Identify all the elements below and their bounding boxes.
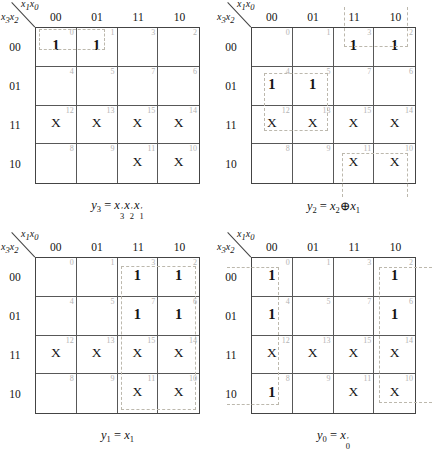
cell-value: X <box>334 106 374 144</box>
row-label-11: 11 <box>0 106 30 145</box>
row-label-11: 11 <box>0 336 30 375</box>
cell-number: 6 <box>409 68 413 76</box>
equation-op: = <box>111 428 124 442</box>
kmap-cell-7: 7 <box>334 297 375 336</box>
corner-label-x3x2: x3x2 <box>1 11 18 25</box>
cell-value: X <box>158 106 199 144</box>
kmap-cell-9: 9 <box>293 374 334 413</box>
equation-sub-digit: 3 <box>120 213 124 219</box>
col-label-10: 10 <box>375 239 416 255</box>
cell-value: X <box>374 106 415 144</box>
cell-number: 5 <box>111 68 115 76</box>
cell-value: X <box>158 144 199 183</box>
kmap-cell-9: 9 <box>77 144 118 183</box>
kmap-cell-6: 6 <box>374 67 415 106</box>
equation-sub: 1 <box>356 205 360 215</box>
group-outline-0 <box>39 29 105 50</box>
kmap-cell-13: 13X <box>293 336 334 375</box>
cell-number: 9 <box>327 145 331 153</box>
kmap-cell-5: 5 <box>77 67 118 106</box>
kmap-cell-4: 4 <box>36 67 77 106</box>
col-label-01: 01 <box>76 239 117 255</box>
cell-number: 9 <box>111 145 115 153</box>
kmap-cell-13: 13X <box>77 106 118 145</box>
cell-number: 7 <box>367 68 371 76</box>
row-label-01: 01 <box>0 296 30 335</box>
kmap-y1: x1x0x3x2000111100001111001312145716112X1… <box>0 230 216 459</box>
kmap-cell-12: 12X <box>36 336 77 375</box>
row-label-00: 00 <box>216 27 246 66</box>
row-label-01: 01 <box>216 66 246 105</box>
cell-number: 5 <box>327 298 331 306</box>
cell-value: X <box>118 106 158 144</box>
kmap-cell-9: 9 <box>293 144 334 183</box>
kmap-cell-15: 15X <box>118 106 159 145</box>
kmap-cell-14: 14X <box>374 106 415 145</box>
cell-number: 8 <box>70 375 74 383</box>
equation-sub-digit: 2 <box>130 213 134 219</box>
kmap-cell-7: 7 <box>334 67 375 106</box>
group-outline-0 <box>227 267 279 405</box>
corner-label-x3x2: x3x2 <box>217 11 234 25</box>
kmap-cell-8: 8 <box>252 144 293 183</box>
row-label-00: 00 <box>0 257 30 296</box>
kmap-cell-13: 13X <box>77 336 118 375</box>
kmap-cell-5: 5 <box>77 297 118 336</box>
kmap-cell-11: 11X <box>118 144 159 183</box>
cell-value: X <box>36 336 76 374</box>
kmap-cell-8: 8 <box>36 374 77 413</box>
cell-number: 4 <box>70 298 74 306</box>
row-label-10: 10 <box>216 145 246 184</box>
equation-y3: y3 = x′3x′2x′1 <box>35 198 200 219</box>
kmap-cell-15: 15X <box>334 336 375 375</box>
cell-value: X <box>293 336 333 374</box>
row-label-11: 11 <box>216 106 246 145</box>
equation-prime-sub: ′1 <box>140 208 144 219</box>
equation-y2: y2 = x2⊕x1 <box>251 198 416 215</box>
cell-value: X <box>118 144 158 183</box>
equation-op: ⊕ <box>340 199 350 213</box>
kmap-y2: x1x0x3x2000111100001111001312141517612X1… <box>216 0 432 230</box>
cell-number: 7 <box>367 298 371 306</box>
cell-number: 8 <box>286 145 290 153</box>
col-label-01: 01 <box>292 9 333 25</box>
col-label-00: 00 <box>35 239 76 255</box>
kmap-cell-8: 8 <box>36 144 77 183</box>
equation-sub: 1 <box>130 434 134 444</box>
corner-bottom-sub: 2 <box>14 245 18 255</box>
cell-number: 0 <box>70 259 74 267</box>
kmap-cell-6: 6 <box>158 67 199 106</box>
equation-y1: y1 = x1 <box>35 428 200 444</box>
equation-sub-digit: 1 <box>140 213 144 219</box>
kmap-cell-0: 0 <box>36 258 77 297</box>
kmap-cell-1: 1 <box>293 28 334 67</box>
col-label-10: 10 <box>159 9 200 25</box>
corner-label-x3x2: x3x2 <box>1 241 18 255</box>
col-label-01: 01 <box>76 9 117 25</box>
cell-value: X <box>77 106 117 144</box>
kmap-cell-15: 15X <box>334 106 375 145</box>
col-label-00: 00 <box>251 239 292 255</box>
cell-number: 6 <box>193 68 197 76</box>
group-outline-0 <box>121 266 197 410</box>
kmap-cell-2: 2 <box>158 28 199 67</box>
col-label-01: 01 <box>292 239 333 255</box>
kmap-cell-3: 3 <box>334 258 375 297</box>
cell-number: 1 <box>111 259 115 267</box>
group-outline-1 <box>379 267 432 403</box>
kmap-cell-9: 9 <box>77 374 118 413</box>
corner-bottom-sub: 2 <box>230 245 234 255</box>
kmap-cell-4: 4 <box>36 297 77 336</box>
kmap-cell-14: 14X <box>158 106 199 145</box>
group-outline-2 <box>342 153 409 197</box>
col-label-11: 11 <box>334 239 375 255</box>
kmap-cell-5: 5 <box>293 297 334 336</box>
row-label-10: 10 <box>0 145 30 184</box>
kmap-grid: 011132457612X13X15X14X8911X10X <box>35 27 200 184</box>
cell-number: 7 <box>151 68 155 76</box>
corner-bottom-sub: 2 <box>230 15 234 25</box>
kmap-cell-12: 12X <box>36 106 77 145</box>
kmap-cell-3: 3 <box>118 28 159 67</box>
equation-y0: y0 = x′0 <box>251 428 416 449</box>
kmap-y0: x1x0x3x2000111100001111001132141576112X1… <box>216 230 432 459</box>
